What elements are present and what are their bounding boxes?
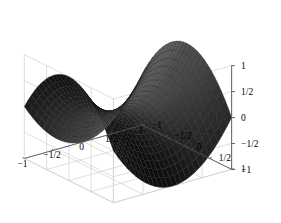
z-axis-tick-label: 0: [241, 113, 246, 123]
y-axis-tick-mark: [209, 158, 211, 159]
z-axis-tick-label: −1/2: [241, 139, 259, 149]
x-axis-tick-label: −1/2: [43, 150, 61, 160]
z-axis-tick-label: −1: [241, 165, 251, 175]
z-axis-tick-label: 1/2: [241, 87, 253, 97]
surface-plot-canvas: −1−1/201/21−1−1/201/21−1−1/201/21: [0, 0, 281, 223]
surface-mesh: [24, 41, 231, 187]
surface-plot-figure: −1−1/201/21−1−1/201/21−1−1/201/21: [0, 0, 281, 223]
y-axis-tick-label: −1: [152, 120, 162, 130]
x-axis-tick-label: 1: [138, 125, 143, 135]
y-axis-tick-label: −1/2: [174, 131, 192, 141]
x-axis-tick-label: 1/2: [105, 134, 117, 144]
y-axis-tick-label: 1/2: [219, 153, 231, 163]
z-axis-tick-label: 1: [241, 61, 246, 71]
y-axis-tick-label: 0: [197, 142, 202, 152]
x-axis-tick-label: −1: [17, 159, 27, 169]
x-axis-tick-label: 0: [79, 142, 84, 152]
